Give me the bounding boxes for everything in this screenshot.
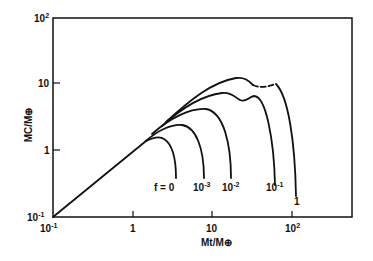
x-axis xyxy=(133,211,292,217)
y-tick-label: 1 xyxy=(44,145,50,156)
curve-f-1-dashed xyxy=(253,84,276,87)
curve-f-1e-1 xyxy=(162,93,275,185)
curve-label-1e-1: 10-1 xyxy=(266,181,283,193)
x-axis-label: Mt/M⊕ xyxy=(201,237,232,248)
y-tick-label: 102 xyxy=(34,12,49,24)
x-tick-label: 1 xyxy=(130,223,136,234)
y-tick-label: 10-1 xyxy=(27,211,44,223)
y-axis xyxy=(53,83,60,150)
curves xyxy=(53,78,296,217)
curve-diagonal xyxy=(53,141,146,217)
y-tick-label: 10 xyxy=(38,78,50,89)
curve-label-1: 1 xyxy=(294,196,300,207)
curve-label-1e-2: 10-2 xyxy=(222,181,239,193)
chart: 102 10 1 10-1 10-1 1 10 102 Mt/M⊕ MC/M⊕ … xyxy=(0,0,373,261)
curve-f-1e-2 xyxy=(152,109,231,178)
x-tick-label: 102 xyxy=(285,222,300,234)
curve-label-f-0: f = 0 xyxy=(154,182,175,193)
x-tick-label: 10 xyxy=(206,223,218,234)
x-tick-label: 10-1 xyxy=(40,222,57,234)
curve-f-1-tail xyxy=(276,84,296,196)
curve-label-1e-3: 10-3 xyxy=(193,181,210,193)
curve-f-0 xyxy=(146,138,176,178)
y-axis-label: MC/M⊕ xyxy=(23,108,34,143)
